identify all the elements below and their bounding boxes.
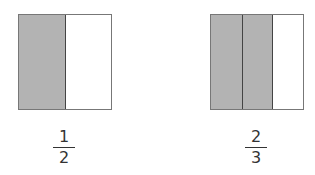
denominator: 2	[44, 149, 84, 167]
fraction-label-two-thirds: 2 3	[236, 128, 276, 167]
shaded-part	[19, 15, 65, 109]
numerator: 1	[44, 128, 84, 146]
fraction-label-half: 1 2	[44, 128, 84, 167]
shaded-part	[242, 15, 273, 109]
unshaded-part	[65, 15, 111, 109]
fraction-model-two-thirds	[210, 14, 304, 110]
fraction-model-half	[18, 14, 112, 110]
shaded-part	[211, 15, 242, 109]
numerator: 2	[236, 128, 276, 146]
unshaded-part	[272, 15, 303, 109]
denominator: 3	[236, 149, 276, 167]
